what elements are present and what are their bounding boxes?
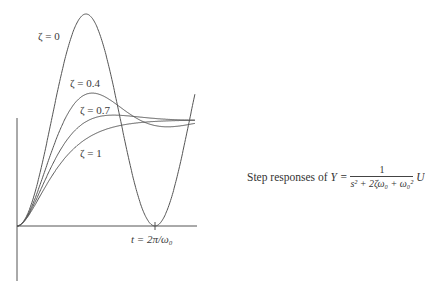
step-response-plot: ζ = 0 ζ = 0.4 ζ = 0.7 ζ = 1 t = 2π/ω₀ [0,0,425,293]
caption-lhs: Y = [330,171,347,183]
caption-suffix: U [416,171,424,183]
label-zeta-0: ζ = 0 [38,30,60,43]
label-zeta-0.7: ζ = 0.7 [80,104,111,117]
transfer-function-fraction: 1 s² + 2ζω₀ + ω₀² [350,164,413,189]
fraction-denominator: s² + 2ζω₀ + ω₀² [350,176,413,189]
caption: Step responses of Y = 1 s² + 2ζω₀ + ω₀² … [247,164,425,189]
curve-zeta-0.7 [17,115,195,226]
x-tick-label: t = 2π/ω₀ [131,233,173,245]
curve-zeta-0 [17,14,195,226]
label-zeta-0.4: ζ = 0.4 [70,77,101,90]
label-zeta-1: ζ = 1 [80,147,102,160]
caption-prefix: Step responses of [247,171,328,183]
fraction-numerator: 1 [379,164,384,176]
